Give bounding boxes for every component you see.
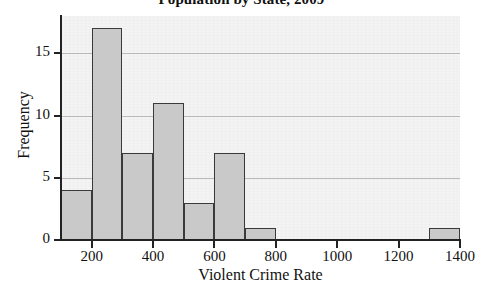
y-tick	[54, 115, 61, 117]
x-axis-title: Violent Crime Rate	[61, 266, 460, 284]
bar	[61, 190, 92, 240]
x-tick-label: 800	[246, 248, 306, 265]
chart-title: Population by State, 2009	[0, 0, 483, 8]
bar	[92, 28, 123, 240]
x-tick-label: 400	[123, 248, 183, 265]
histogram-figure: Population by State, 2009 051015 2004006…	[0, 0, 483, 290]
y-tick	[54, 52, 61, 54]
x-tick	[398, 241, 400, 248]
y-axis-title: Frequency	[15, 45, 33, 205]
y-tick	[54, 239, 61, 241]
x-tick	[213, 241, 215, 248]
x-tick-label: 1400	[430, 248, 483, 265]
bar	[153, 103, 184, 240]
x-tick	[152, 241, 154, 248]
x-tick-label: 600	[184, 248, 244, 265]
x-tick	[91, 241, 93, 248]
x-tick-label: 200	[62, 248, 122, 265]
y-tick-label: 0	[22, 230, 50, 247]
bar	[184, 203, 215, 240]
x-axis-line	[60, 239, 461, 241]
bar	[122, 153, 153, 240]
x-tick	[275, 241, 277, 248]
bar	[214, 153, 245, 240]
y-axis-line	[60, 15, 62, 241]
y-tick	[54, 177, 61, 179]
x-tick	[459, 241, 461, 248]
x-tick	[336, 241, 338, 248]
plot-area	[61, 16, 460, 240]
x-tick-label: 1200	[369, 248, 429, 265]
x-tick-label: 1000	[307, 248, 367, 265]
